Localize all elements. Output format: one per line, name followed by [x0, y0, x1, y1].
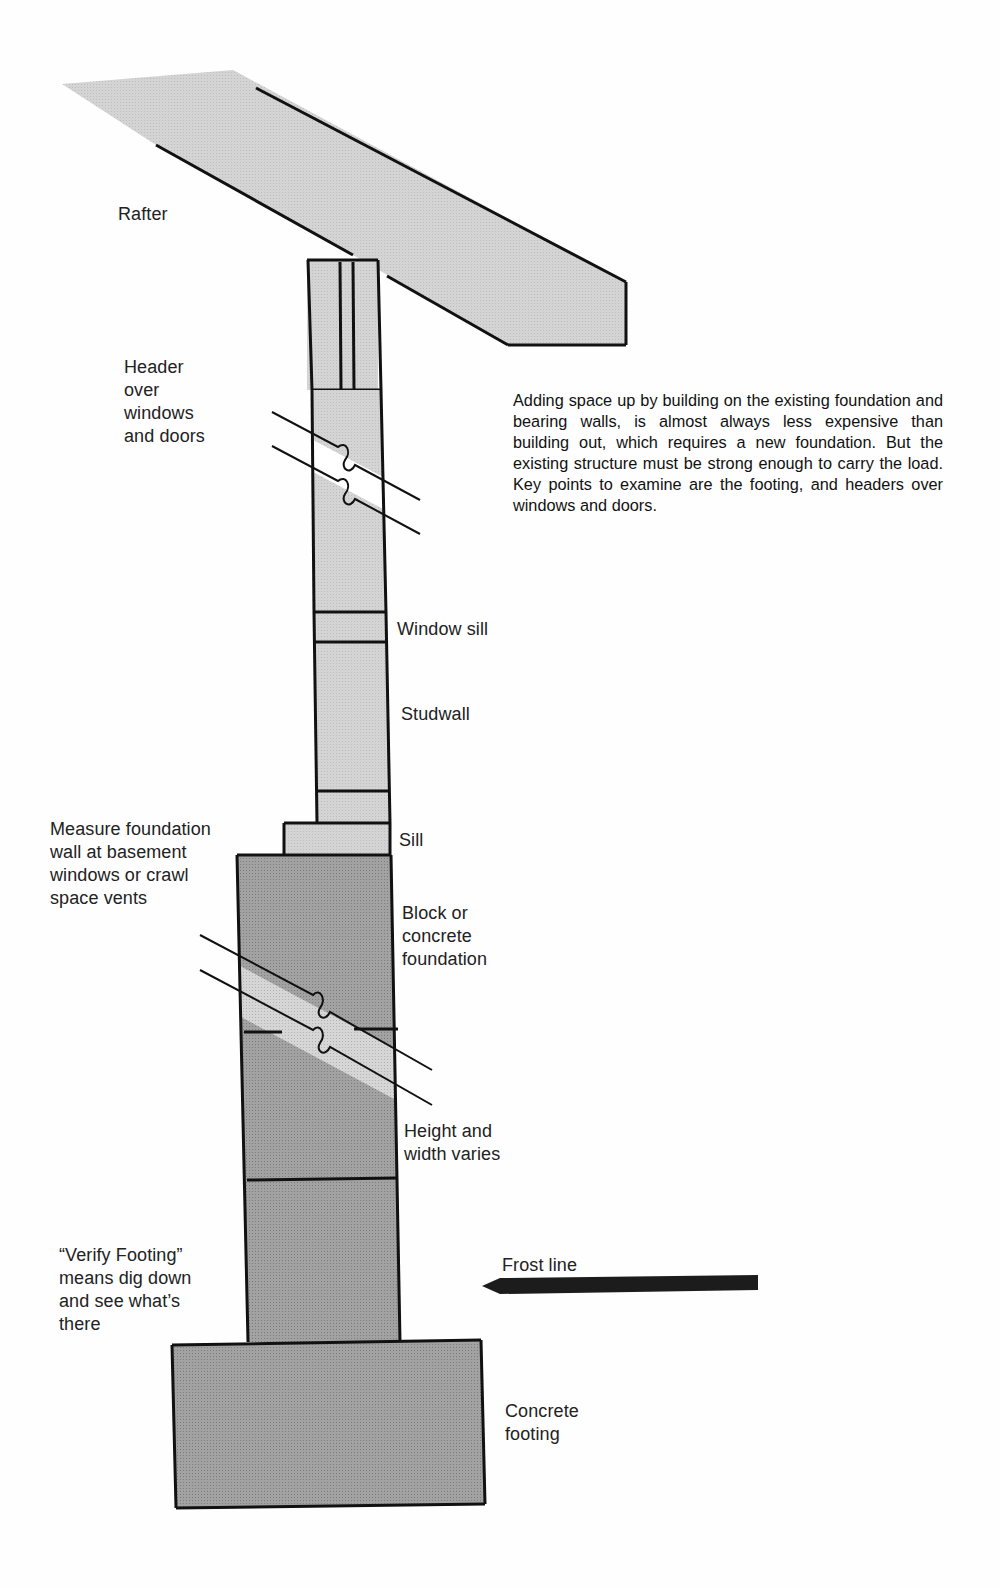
sill [284, 823, 390, 855]
top-plates [307, 260, 381, 390]
diagram-canvas: Rafter Header over windows and doors Add… [0, 0, 1000, 1588]
studwall-label: Studwall [401, 703, 470, 726]
studwall [314, 612, 390, 823]
window-sill-label: Window sill [397, 618, 488, 641]
foundation-wall [200, 855, 432, 1342]
frost-line-label: Frost line [502, 1254, 577, 1277]
frost-line [482, 1275, 758, 1294]
description-paragraph: Adding space up by building on the exist… [513, 390, 943, 516]
header-label: Header over windows and doors [124, 356, 205, 448]
height-width-label: Height and width varies [404, 1120, 500, 1166]
block-foundation-label: Block or concrete foundation [402, 902, 487, 971]
concrete-footing [172, 1340, 485, 1508]
verify-footing-label: “Verify Footing” means dig down and see … [59, 1244, 191, 1336]
rafter-label: Rafter [118, 203, 168, 226]
header [272, 390, 420, 612]
measure-label: Measure foundation wall at basement wind… [50, 818, 211, 910]
wall-section-drawing [0, 0, 1000, 1588]
sill-label: Sill [399, 829, 423, 852]
concrete-footing-label: Concrete footing [505, 1400, 579, 1446]
